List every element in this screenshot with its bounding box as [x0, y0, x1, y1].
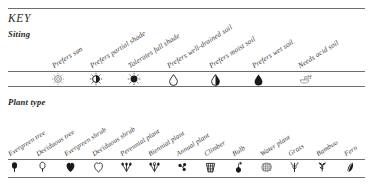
- top-rule: [8, 8, 365, 9]
- bulb-icon: [229, 160, 247, 174]
- shrub-open-icon: [89, 160, 107, 174]
- siting-label-6: Needs acid soil: [296, 38, 340, 70]
- droplet-filled-icon: [249, 72, 267, 86]
- siting-label-3: Prefers well-drained soil: [165, 23, 234, 70]
- tree-filled-icon: [5, 160, 23, 174]
- tree-open-icon: [33, 160, 51, 174]
- plant-type-label-11: Bamboo: [315, 139, 340, 158]
- sun-filled-icon: [125, 72, 143, 86]
- annual-icon: [173, 160, 191, 174]
- svg-text:pH: pH: [303, 73, 312, 80]
- plant-type-label-9: Water plant: [259, 133, 292, 158]
- section-title-siting: Siting: [8, 29, 30, 39]
- droplet-half-icon: [206, 72, 224, 86]
- droplet-open-icon: [164, 72, 182, 86]
- siting-footer-rule: [8, 86, 365, 87]
- key-page: KEY Siting Plant type Prefers sunPrefers…: [0, 0, 373, 190]
- siting-label-5: Prefers wet soil: [250, 37, 295, 70]
- plant-type-label-12: Fern: [343, 144, 359, 158]
- sun-open-icon: [49, 72, 67, 86]
- section-title-plant-type: Plant type: [8, 97, 46, 107]
- page-title: KEY: [8, 12, 31, 24]
- plant-type-label-7: Climber: [203, 139, 227, 158]
- biennial-icon: [145, 160, 163, 174]
- plant-type-icon-row: [0, 160, 373, 174]
- plant-type-label-8: Bulb: [231, 144, 247, 158]
- siting-icon-row: pH: [0, 72, 373, 86]
- planttype-footer-rule: [8, 177, 365, 178]
- plant-type-label-10: Grass: [287, 142, 306, 158]
- perennial-icon: [117, 160, 135, 174]
- fern-icon: [341, 160, 359, 174]
- water-plant-icon: [257, 160, 275, 174]
- shrub-filled-icon: [61, 160, 79, 174]
- grass-icon: [285, 160, 303, 174]
- bamboo-icon: [313, 160, 331, 174]
- climber-trellis-icon: [201, 160, 219, 174]
- ph-acid-icon: pH: [295, 72, 313, 86]
- sun-half-icon: [87, 72, 105, 86]
- siting-label-0: Prefers sun: [50, 44, 84, 70]
